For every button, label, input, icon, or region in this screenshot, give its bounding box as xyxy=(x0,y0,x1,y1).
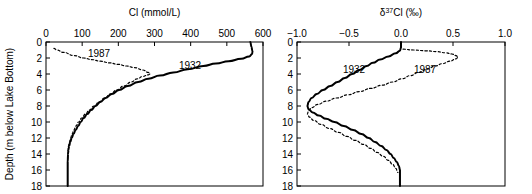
y-axis-title: Depth (m below Lake Bottom) xyxy=(4,48,15,180)
x-tick-label: 0 xyxy=(43,28,49,39)
y-tick-label: 16 xyxy=(282,165,294,176)
plot-frame xyxy=(297,42,505,186)
x-tick-label: −0.5 xyxy=(339,28,359,39)
y-tick-label: 10 xyxy=(31,117,43,128)
y-tick-label: 0 xyxy=(36,37,42,48)
y-tick-label: 12 xyxy=(282,133,294,144)
y-tick-label: 18 xyxy=(282,181,294,192)
x-tick-label: 400 xyxy=(182,28,199,39)
x-tick-label: 300 xyxy=(146,28,163,39)
figure-container: 0100200300400500600024681012141618Cl (mm… xyxy=(0,0,532,194)
x-tick-label: 0.5 xyxy=(446,28,460,39)
y-tick-label: 14 xyxy=(282,149,294,160)
y-tick-label: 6 xyxy=(287,85,293,96)
series-label-1932-left: 1932 xyxy=(179,60,202,71)
y-tick-label: 12 xyxy=(31,133,43,144)
y-tick-label: 4 xyxy=(36,69,42,80)
x-axis-title: Cl (mmol/L) xyxy=(129,7,181,18)
series-label-1987-right: 1987 xyxy=(414,64,437,75)
x-axis-title: δ37Cl (‰) xyxy=(380,7,422,19)
x-tick-label: 100 xyxy=(74,28,91,39)
y-tick-label: 0 xyxy=(287,37,293,48)
y-tick-label: 2 xyxy=(287,53,293,64)
dual-depth-profile-chart: 0100200300400500600024681012141618Cl (mm… xyxy=(0,0,532,194)
y-tick-label: 10 xyxy=(282,117,294,128)
y-tick-label: 8 xyxy=(36,101,42,112)
series-curve-1932 xyxy=(68,42,253,186)
y-tick-label: 16 xyxy=(31,165,43,176)
x-tick-label: 600 xyxy=(255,28,272,39)
panel-right: −1.0−0.50.00.51.0024681012141618δ37Cl (‰… xyxy=(282,7,513,192)
x-tick-label: 1.0 xyxy=(498,28,512,39)
series-label-1932-right: 1932 xyxy=(343,64,366,75)
y-tick-label: 2 xyxy=(36,53,42,64)
y-tick-label: 8 xyxy=(287,101,293,112)
panel-left: 0100200300400500600024681012141618Cl (mm… xyxy=(31,7,272,192)
series-label-1987-left: 1987 xyxy=(88,48,111,59)
y-tick-label: 14 xyxy=(31,149,43,160)
x-tick-label: 500 xyxy=(218,28,235,39)
y-tick-label: 6 xyxy=(36,85,42,96)
y-tick-label: 4 xyxy=(287,69,293,80)
y-tick-label: 18 xyxy=(31,181,43,192)
x-tick-label: 200 xyxy=(110,28,127,39)
x-tick-label: 0.0 xyxy=(394,28,408,39)
plot-frame xyxy=(46,42,263,186)
